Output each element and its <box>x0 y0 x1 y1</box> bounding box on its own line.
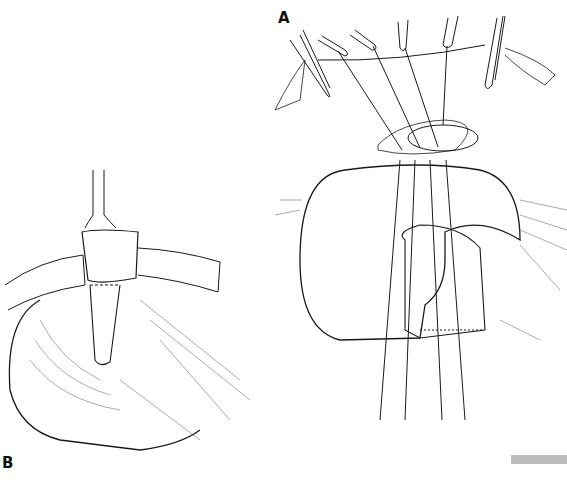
surgical-illustration <box>0 0 567 485</box>
panel-b-drawing <box>5 170 250 450</box>
panel-a-drawing <box>275 16 567 420</box>
scale-bar <box>511 455 567 464</box>
